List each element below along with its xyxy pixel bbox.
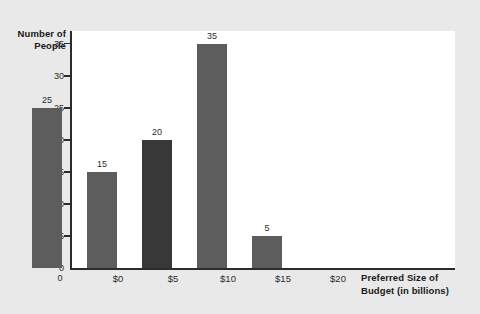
x-axis-title-line-1: Preferred Size of	[361, 272, 477, 285]
bar-value-label: 15	[82, 159, 122, 169]
x-tick-label: $5	[145, 273, 201, 284]
bar	[252, 236, 282, 268]
bar	[32, 108, 62, 268]
bar	[87, 172, 117, 268]
bar-value-label: 5	[247, 223, 287, 233]
x-tick-label: $15	[255, 273, 311, 284]
x-axis-origin-label: 0	[52, 273, 68, 283]
bar-value-label: 20	[137, 127, 177, 137]
bar-value-label: 25	[27, 95, 67, 105]
x-axis-title-line-2: Budget (in billions)	[361, 285, 477, 298]
bar	[142, 140, 172, 268]
x-axis-line	[70, 268, 455, 270]
bar-chart-figure: Number of People 05101520253035 25152035…	[0, 0, 480, 314]
bar-series: 251520355	[0, 31, 384, 268]
x-tick-label: $10	[200, 273, 256, 284]
x-axis-title: Preferred Size of Budget (in billions)	[361, 272, 477, 297]
bar-value-label: 35	[192, 31, 232, 41]
x-tick-label: $20	[310, 273, 366, 284]
x-tick-label: $0	[90, 273, 146, 284]
bar	[197, 44, 227, 268]
